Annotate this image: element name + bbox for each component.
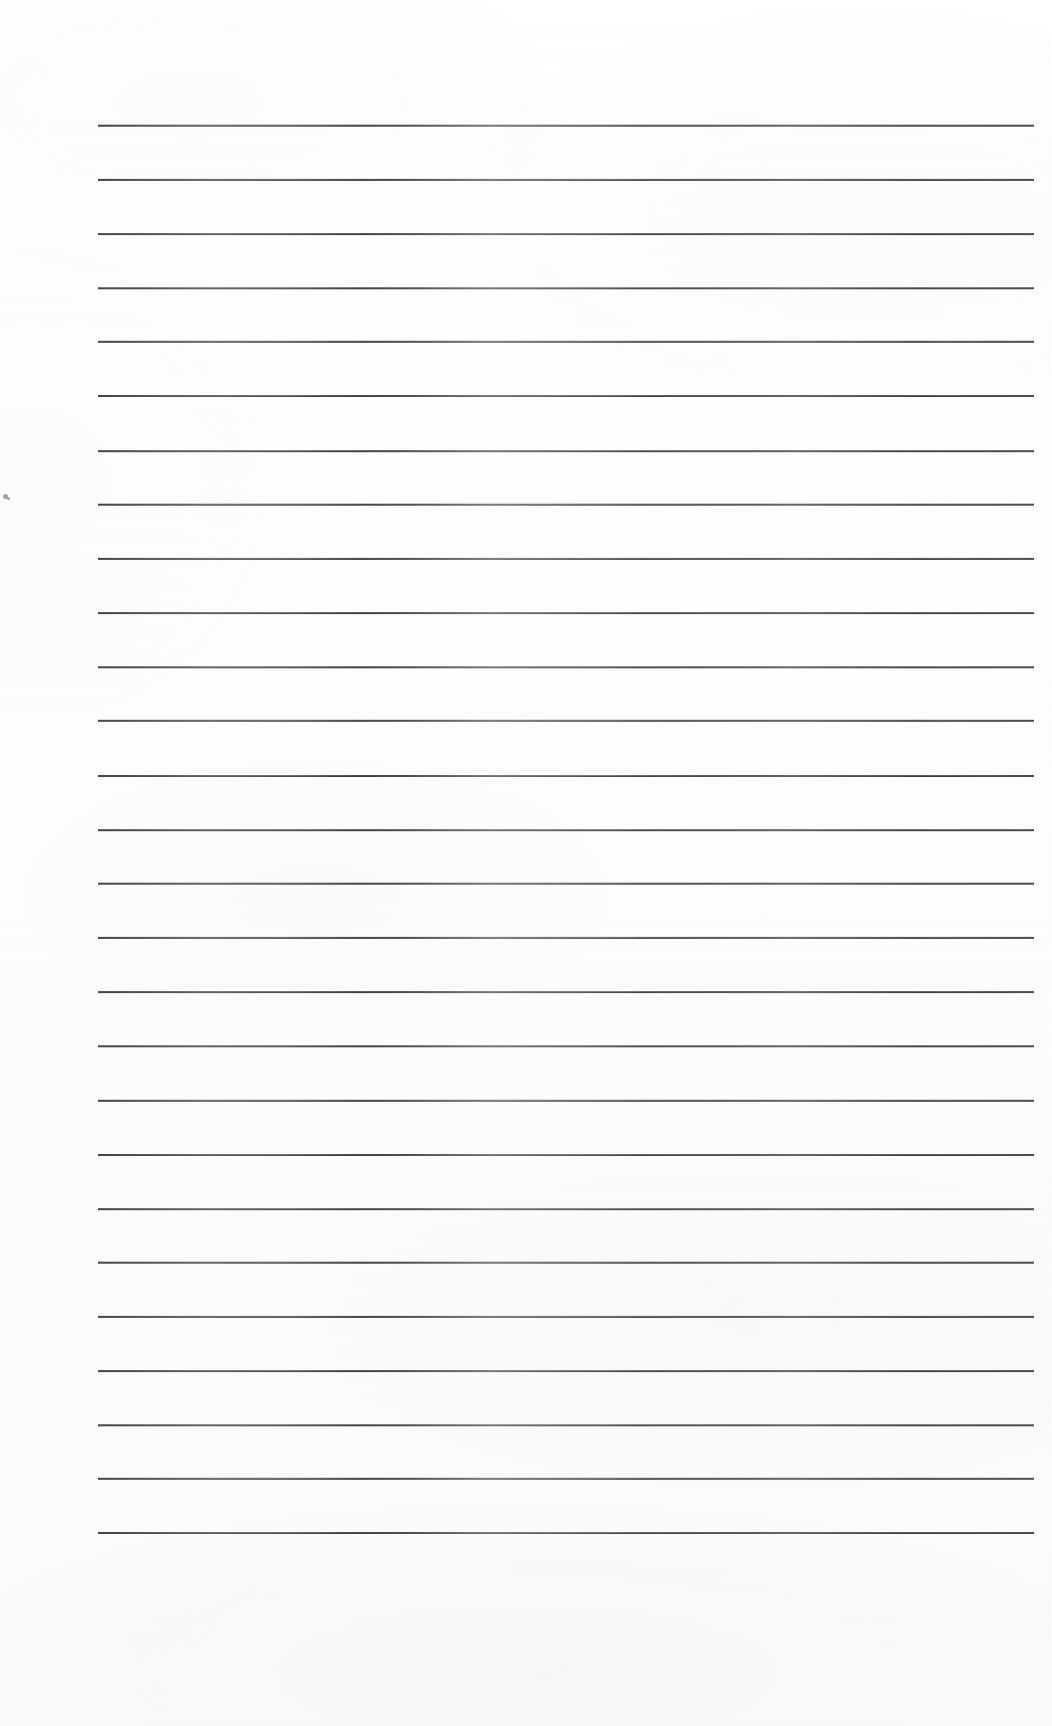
ruled-line: [98, 1262, 1034, 1264]
ruled-line: [98, 1532, 1034, 1534]
ruled-line: [98, 1154, 1034, 1156]
ruled-line: [98, 504, 1034, 506]
ruled-line: [98, 395, 1034, 397]
ruled-line: [98, 287, 1034, 289]
ruled-line: [98, 720, 1034, 722]
ruled-lines-layer: [0, 0, 1052, 1726]
ruled-line: [98, 558, 1034, 560]
ruled-line: [98, 937, 1034, 939]
ruled-line: [98, 991, 1034, 993]
ruled-line: [98, 829, 1034, 831]
ruled-line: [98, 1478, 1034, 1480]
ruled-line: [98, 1316, 1034, 1318]
ruled-line: [98, 1045, 1034, 1047]
scan-speck: [7, 497, 10, 500]
ruled-line: [98, 612, 1034, 614]
ruled-line: [98, 1370, 1034, 1372]
ruled-line: [98, 450, 1034, 452]
ruled-line: [98, 1208, 1034, 1210]
ruled-line: [98, 179, 1034, 181]
scanned-page: [0, 0, 1052, 1726]
ruled-line: [98, 1100, 1034, 1102]
ruled-line: [98, 341, 1034, 343]
ruled-line: [98, 883, 1034, 885]
ruled-line: [98, 233, 1034, 235]
ruled-line: [98, 666, 1034, 668]
ruled-line: [98, 1424, 1034, 1426]
ruled-line: [98, 775, 1034, 777]
ruled-line: [98, 125, 1034, 127]
